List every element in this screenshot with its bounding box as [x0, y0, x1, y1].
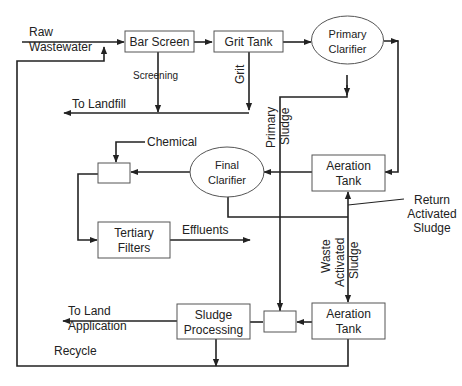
- to-landfill-label: To Landfill: [72, 97, 126, 111]
- chembox-to-tertiary-line: [78, 174, 98, 240]
- sludge-mixing-box: [264, 311, 296, 332]
- primary-sludge-label-2: Sludge: [278, 107, 292, 145]
- grit-tank-node: Grit Tank: [214, 31, 283, 52]
- sludge-processing-label-2: Processing: [184, 323, 243, 337]
- tertiary-filters-label-2: Filters: [118, 241, 151, 255]
- sludge-processing-node: Sludge Processing: [177, 304, 250, 339]
- final-clarifier-label-2: Clarifier: [208, 174, 246, 186]
- bar-screen-label: Bar Screen: [129, 35, 189, 49]
- waste-label-2: Activated: [333, 238, 347, 287]
- bar-screen-node: Bar Screen: [125, 31, 194, 52]
- final-clarifier-label-1: Final: [215, 159, 239, 171]
- aeration-tank-upper-label-1: Aeration: [326, 159, 371, 173]
- return-label-3: Sludge: [413, 221, 451, 235]
- tertiary-filters-node: Tertiary Filters: [98, 222, 170, 258]
- aeration-tank-upper-label-2: Tank: [336, 174, 362, 188]
- chemical-label: Chemical: [147, 135, 197, 149]
- return-sludge-line: [228, 195, 348, 217]
- effluents-label: Effluents: [182, 223, 228, 237]
- waste-label-3: Sludge: [347, 241, 361, 279]
- grit-label: Grit: [233, 64, 247, 84]
- primary-clarifier-node: Primary Clarifier: [312, 16, 384, 64]
- return-label-1: Return: [414, 193, 450, 207]
- to-land-label-2: Application: [68, 319, 127, 333]
- tertiary-filters-label-1: Tertiary: [114, 226, 153, 240]
- final-clarifier-node: Final Clarifier: [190, 147, 264, 197]
- chemical-mixing-box: [98, 163, 130, 183]
- aeration-tank-lower-label-1: Aeration: [326, 307, 371, 321]
- raw-label: Raw: [29, 25, 53, 39]
- recycle-label: Recycle: [54, 344, 97, 358]
- primary-sludge-label-1: Primary: [264, 107, 278, 148]
- primary-to-aeration-line: [384, 41, 398, 172]
- screening-label: Screening: [133, 70, 178, 81]
- return-label-2: Activated: [407, 207, 456, 221]
- to-land-label-1: To Land: [68, 304, 111, 318]
- sludge-processing-label-1: Sludge: [195, 308, 233, 322]
- grit-tank-label: Grit Tank: [225, 35, 274, 49]
- primary-clarifier-label-1: Primary: [329, 28, 367, 40]
- aeration-tank-lower-node: Aeration Tank: [312, 303, 385, 339]
- chemical-line: [116, 142, 145, 162]
- waste-label-1: Waste: [319, 239, 333, 273]
- process-flow-diagram: Bar Screen Grit Tank Primary Clarifier A…: [0, 0, 462, 386]
- aeration-tank-lower-label-2: Tank: [336, 322, 362, 336]
- wastewater-label: Wastewater: [29, 40, 92, 54]
- aeration-tank-upper-node: Aeration Tank: [312, 155, 385, 191]
- primary-clarifier-label-2: Clarifier: [329, 43, 367, 55]
- return-label-pointer: [348, 199, 404, 205]
